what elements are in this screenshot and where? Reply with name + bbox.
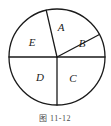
sector-label-d: D (35, 71, 44, 83)
radius-upper-left-line (46, 10, 57, 57)
sector-label-b: B (79, 37, 86, 49)
figure-caption: 图 11-12 (39, 114, 71, 123)
sector-label-c: C (69, 72, 77, 84)
sector-label-e: E (28, 36, 36, 48)
circle-sector-figure: A B C D E 图 11-12 (0, 0, 111, 126)
figure-page: A B C D E 图 11-12 (0, 0, 111, 126)
sector-label-a: A (57, 21, 65, 33)
